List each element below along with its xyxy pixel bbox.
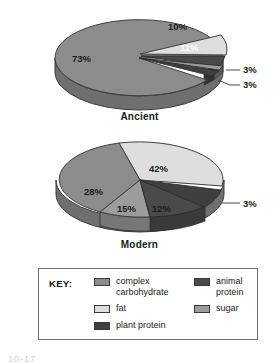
ancient-pie-svg: [0, 0, 279, 128]
legend-swatch-complex-carbohydrate: [94, 278, 110, 286]
legend-swatch-animal-protein: [194, 278, 210, 286]
bottom-cut-text: 10-17: [8, 354, 36, 363]
legend-label-sugar: sugar: [216, 303, 239, 314]
ancient-pie-chart: [0, 0, 279, 128]
ancient-label-3-plant: 3%: [243, 79, 257, 90]
legend-item-sugar: sugar: [194, 303, 264, 314]
legend-column-left: complex carbohydrate fat plant protein: [94, 276, 189, 336]
legend-item-plant-protein: plant protein: [94, 320, 189, 331]
ancient-label-11: 11%: [180, 42, 199, 53]
legend-column-right: animal protein sugar: [194, 276, 264, 320]
ancient-label-3-sugar: 3%: [243, 64, 257, 75]
legend-label-fat: fat: [116, 303, 126, 314]
legend-label-animal-protein: animal protein: [216, 276, 264, 297]
modern-label-42: 42%: [149, 163, 168, 174]
legend-item-animal-protein: animal protein: [194, 276, 264, 297]
legend-item-fat: fat: [94, 303, 189, 314]
legend-title: KEY:: [49, 278, 72, 289]
modern-pie-svg: [0, 128, 279, 256]
legend-swatch-fat: [94, 305, 110, 313]
modern-label-12: 12%: [152, 203, 171, 214]
legend-box: KEY: complex carbohydrate fat plant prot…: [38, 268, 258, 340]
modern-label-3-plant: 3%: [243, 198, 257, 209]
legend-label-plant-protein: plant protein: [116, 320, 166, 331]
legend-swatch-plant-protein: [94, 322, 110, 330]
modern-label-28: 28%: [84, 186, 103, 197]
legend-item-complex-carbohydrate: complex carbohydrate: [94, 276, 189, 297]
modern-chart-caption: Modern: [0, 239, 279, 250]
ancient-chart-caption: Ancient: [0, 111, 279, 122]
diet-composition-figure: Ancient 73% 10% 11% 3% 3%: [0, 0, 279, 363]
modern-label-15: 15%: [117, 203, 136, 214]
legend-label-complex-carbohydrate: complex carbohydrate: [116, 276, 189, 297]
ancient-label-73: 73%: [72, 53, 91, 64]
ancient-label-10: 10%: [168, 21, 187, 32]
legend-swatch-sugar: [194, 305, 210, 313]
modern-pie-chart: [0, 128, 279, 256]
